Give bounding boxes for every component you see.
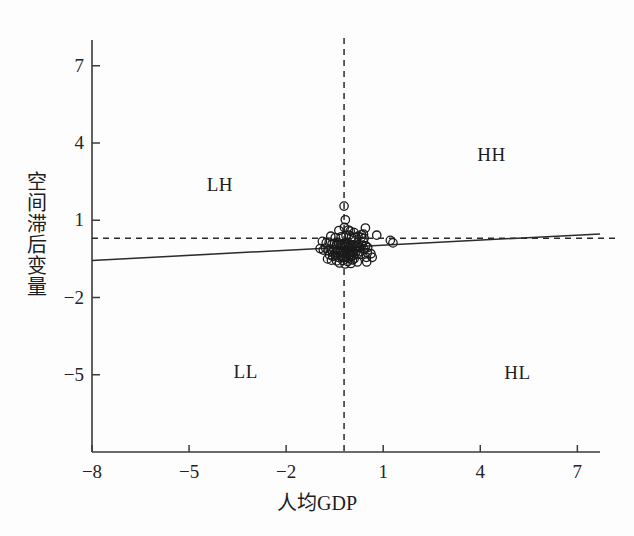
y-tick-label: −2 <box>54 287 84 309</box>
scatter-point <box>341 216 349 224</box>
x-axis-title: 人均GDP <box>277 487 357 516</box>
quadrant-label-lh: LH <box>207 174 233 196</box>
y-axis-title-char: 间 <box>24 193 50 214</box>
y-tick-label: 1 <box>54 209 84 231</box>
y-tick-label: 7 <box>54 55 84 77</box>
scatter-point <box>373 231 381 239</box>
x-tick-label: 4 <box>476 461 486 483</box>
quadrant-label-hl: HL <box>504 362 530 384</box>
quadrant-label-hh: HH <box>477 144 505 166</box>
x-tick-label: 1 <box>378 461 388 483</box>
y-axis-title-char: 后 <box>24 235 50 256</box>
y-axis-title-char: 量 <box>24 277 50 298</box>
plot-canvas <box>0 0 634 536</box>
y-axis-title-char: 变 <box>24 256 50 277</box>
x-tick-label: 7 <box>573 461 583 483</box>
moran-scatterplot-figure: −8−5−2147 741−2−5 LHHHLLHL 人均GDP 空间滞后变量 <box>0 0 634 536</box>
quadrant-label-ll: LL <box>234 361 258 383</box>
scatter-points-group <box>316 202 397 268</box>
x-tick-label: −8 <box>82 461 102 483</box>
y-axis-title-char: 空 <box>24 172 50 193</box>
x-tick-label: −5 <box>179 461 199 483</box>
y-tick-label: 4 <box>54 132 84 154</box>
y-tick-label: −5 <box>54 364 84 386</box>
x-tick-label: −2 <box>276 461 296 483</box>
y-axis-title-char: 滞 <box>24 214 50 235</box>
y-axis-title: 空间滞后变量 <box>24 172 50 298</box>
